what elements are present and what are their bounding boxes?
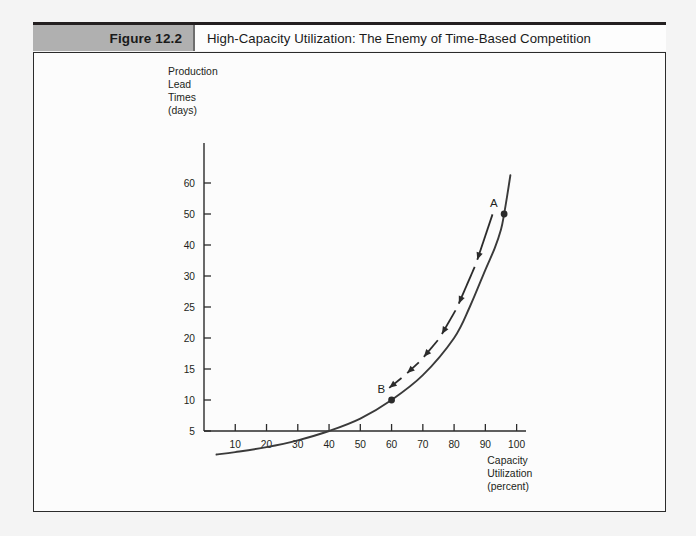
point-marker-a — [501, 211, 508, 218]
y-tick-label: 60 — [184, 178, 196, 189]
x-axis-title-line: Utilization — [487, 468, 532, 479]
y-axis-title: ProductionLeadTimes(days) — [168, 66, 218, 116]
arrow-head — [477, 252, 483, 260]
x-axis-title-line: (percent) — [487, 481, 529, 492]
y-tick-label: 15 — [184, 364, 196, 375]
x-tick-label: 70 — [417, 439, 429, 450]
y-axis-title-line: (days) — [168, 105, 197, 116]
y-tick-label: 25 — [184, 302, 196, 313]
chart-svg: 51015202530405060 102030405060708090100 … — [34, 53, 664, 510]
x-tick-label: 40 — [323, 439, 335, 450]
figure-container: Figure 12.2 High-Capacity Utilization: T… — [0, 0, 696, 536]
data-point-markers — [388, 211, 507, 404]
figure-title: High-Capacity Utilization: The Enemy of … — [195, 25, 666, 51]
y-axis-ticks: 51015202530405060 — [184, 178, 211, 437]
figure-number-label: Figure 12.2 — [33, 25, 193, 51]
x-tick-label: 80 — [448, 439, 460, 450]
plot-panel: 51015202530405060 102030405060708090100 … — [33, 52, 666, 512]
data-point-labels: AB — [378, 197, 499, 395]
x-axis-title-line: Capacity — [487, 455, 528, 466]
point-label-a: A — [490, 197, 498, 209]
x-tick-label: 90 — [480, 439, 492, 450]
x-tick-label: 10 — [230, 439, 242, 450]
y-axis-title-line: Production — [168, 66, 218, 77]
point-label-b: B — [378, 383, 386, 395]
y-tick-label: 50 — [184, 209, 196, 220]
x-tick-label: 100 — [508, 439, 525, 450]
figure-caption-bar: Figure 12.2 High-Capacity Utilization: T… — [33, 22, 666, 51]
arrow-chain-a-to-b — [389, 214, 492, 387]
lead-time-curve — [217, 175, 511, 454]
y-axis-title-line: Lead — [168, 79, 191, 90]
y-tick-label: 30 — [184, 271, 196, 282]
y-tick-label: 5 — [189, 426, 195, 437]
y-tick-label: 10 — [184, 395, 196, 406]
x-tick-label: 50 — [355, 439, 367, 450]
x-axis-title: CapacityUtilization(percent) — [487, 455, 532, 492]
y-tick-label: 20 — [184, 333, 196, 344]
point-marker-b — [388, 397, 395, 404]
y-tick-label: 40 — [184, 240, 196, 251]
x-tick-label: 60 — [386, 439, 398, 450]
y-axis-title-line: Times — [168, 92, 196, 103]
